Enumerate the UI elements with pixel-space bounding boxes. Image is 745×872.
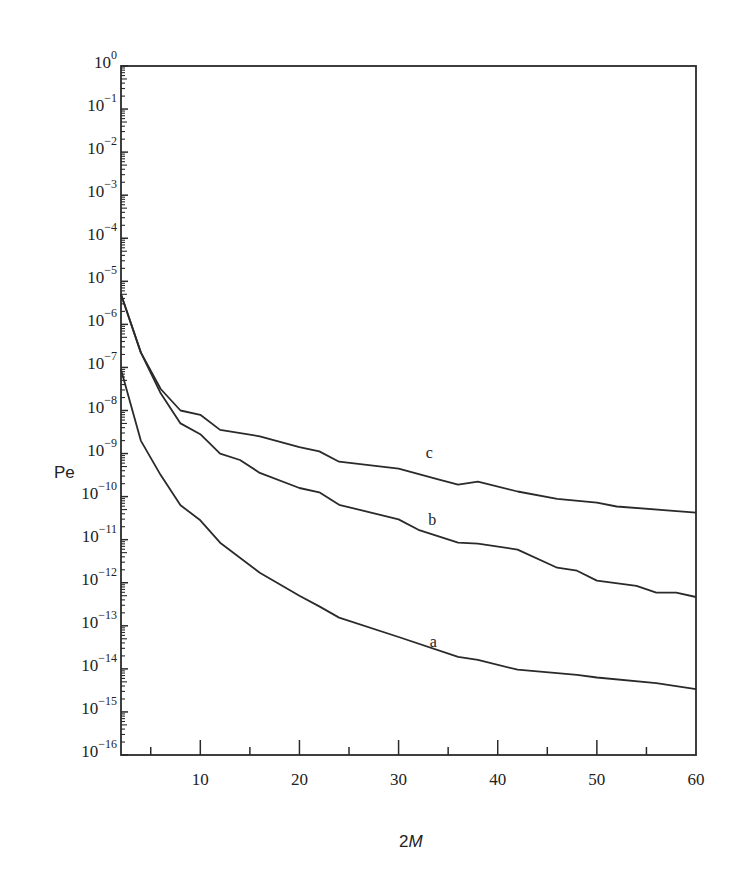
x-axis-label-prefix: 2 xyxy=(399,832,408,851)
y-tick-label: 10−8 xyxy=(87,393,117,417)
curve-c xyxy=(121,294,696,512)
y-tick-label: 10−5 xyxy=(87,263,117,287)
curve-labels: abc xyxy=(426,444,437,650)
y-tick-label: 10−13 xyxy=(81,608,117,632)
curve-a xyxy=(121,370,696,689)
x-tick-label: 20 xyxy=(291,770,308,789)
curve-label-b: b xyxy=(428,511,436,528)
y-tick-label: 10−10 xyxy=(81,479,117,503)
y-axis-label: Pe xyxy=(54,463,75,482)
y-tick-label: 10−3 xyxy=(87,177,117,201)
curve-label-a: a xyxy=(430,633,437,650)
x-axis-ticks: 102030405060 xyxy=(151,740,705,789)
x-tick-label: 30 xyxy=(390,770,407,789)
data-curves xyxy=(121,294,696,689)
plot-frame xyxy=(121,66,696,755)
y-tick-label: 10−12 xyxy=(81,565,117,589)
curve-label-c: c xyxy=(426,444,433,461)
plot-border xyxy=(121,66,696,755)
y-tick-label: 10−15 xyxy=(81,694,117,718)
x-tick-label: 40 xyxy=(489,770,506,789)
y-tick-label: 100 xyxy=(94,48,117,72)
pe-vs-2m-chart: 10010−110−210−310−410−510−610−710−810−91… xyxy=(0,0,745,872)
y-tick-label: 10−11 xyxy=(82,522,117,546)
y-tick-label: 10−16 xyxy=(81,737,117,761)
y-tick-label: 10−2 xyxy=(87,134,117,158)
x-tick-label: 10 xyxy=(192,770,209,789)
y-tick-label: 10−1 xyxy=(87,91,117,115)
x-axis-label-variable: M xyxy=(408,832,423,851)
y-tick-label: 10−14 xyxy=(81,651,117,675)
y-tick-label: 10−7 xyxy=(87,349,117,373)
x-tick-label: 50 xyxy=(588,770,605,789)
x-tick-label: 60 xyxy=(688,770,705,789)
y-tick-label: 10−9 xyxy=(87,436,117,460)
curve-b xyxy=(121,294,696,597)
y-tick-label: 10−6 xyxy=(87,306,117,330)
y-tick-label: 10−4 xyxy=(87,220,117,244)
x-axis-label: 2M xyxy=(399,832,423,851)
